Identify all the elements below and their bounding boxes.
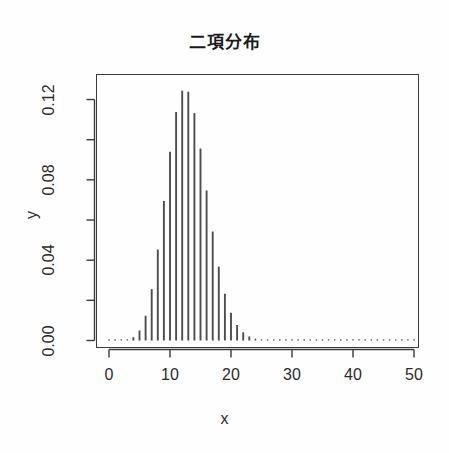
x-axis-ticks	[109, 350, 414, 358]
y-axis-tick-labels: 0.000.040.080.12	[0, 0, 84, 453]
y-axis-title-text: y	[17, 211, 47, 219]
y-tick-label-0.08: 0.08	[19, 171, 79, 189]
y-tick-label-text: 0.04	[40, 230, 58, 290]
y-tick-label-text: 0.00	[40, 311, 58, 371]
y-tick-label-text: 0.08	[40, 150, 58, 210]
x-tick-label-20: 20	[222, 366, 240, 384]
y-tick-label-0: 0.00	[19, 332, 79, 350]
x-tick-label-30: 30	[283, 366, 301, 384]
y-tick-label-text: 0.12	[40, 70, 58, 130]
chart-canvas: 二項分布 01020304050 0.000.040.080.12 x y	[0, 0, 449, 453]
x-axis-title: x	[0, 410, 449, 428]
y-axis-title: y	[22, 200, 42, 230]
y-tick-label-0.12: 0.12	[19, 91, 79, 109]
y-axis-ticks	[87, 100, 95, 341]
x-tick-label-40: 40	[344, 366, 362, 384]
x-tick-label-10: 10	[161, 366, 179, 384]
plot-area-border	[96, 74, 419, 348]
x-tick-label-0: 0	[105, 366, 114, 384]
y-tick-label-0.04: 0.04	[19, 251, 79, 269]
x-tick-label-50: 50	[405, 366, 423, 384]
